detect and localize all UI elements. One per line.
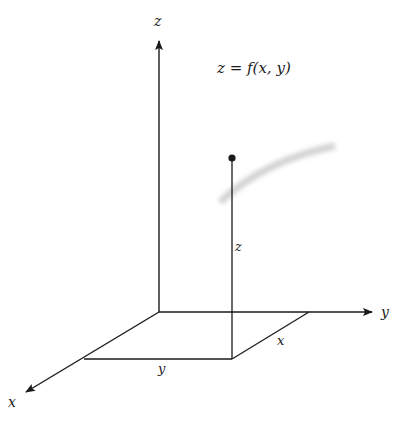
base-right-edge [232,312,309,359]
coordinate-diagram: z = f(x, y) z y x z y x [0,0,404,421]
z-axis-label: z [153,13,162,29]
equation-label: z = f(x, y) [216,59,291,77]
x-axis [26,312,159,392]
base-y-label: y [157,361,166,376]
y-axis-label: y [380,304,390,320]
base-x-label: x [277,333,285,348]
surface-point [228,154,235,161]
surface-smudge [220,146,335,202]
x-axis-label: x [8,394,16,410]
height-z-label: z [234,239,242,254]
